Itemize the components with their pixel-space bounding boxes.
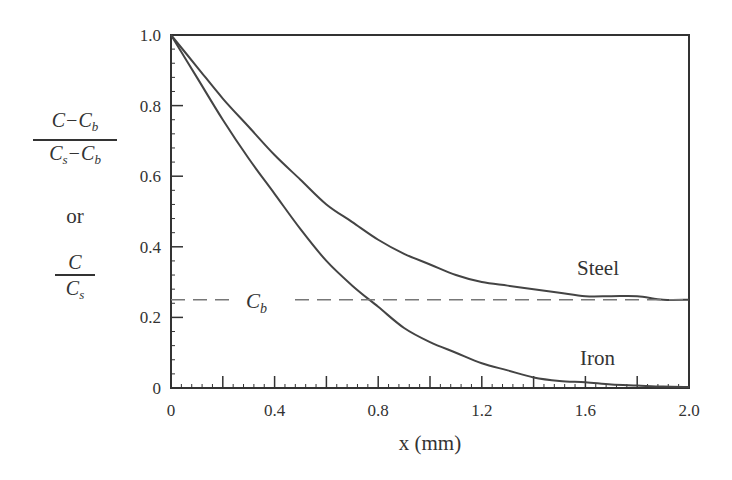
iron-curve	[171, 35, 689, 387]
x-axis-title: x (mm)	[399, 431, 461, 455]
x-tick-label: 0	[167, 401, 176, 420]
x-tick-label: 0.8	[368, 401, 389, 420]
x-tick-label: 1.2	[471, 401, 492, 420]
steel-label: Steel	[577, 256, 619, 280]
y-tick-label: 0.6	[140, 167, 161, 186]
axis-tick-labels: 00.40.81.21.62.000.20.40.60.81.0	[140, 26, 700, 420]
iron-label: Iron	[580, 346, 615, 370]
y-axis-title-fraction-1: C−Cb Cs−Cb	[30, 108, 120, 172]
chart: 00.40.81.21.62.000.20.40.60.81.0 Steel I…	[0, 0, 732, 480]
plot-frame	[171, 35, 689, 388]
y-tick-label: 0.8	[140, 97, 161, 116]
y-axis-title-fraction-2: C Cs	[50, 250, 100, 307]
x-tick-label: 2.0	[678, 401, 699, 420]
y-tick-label: 1.0	[140, 26, 161, 45]
fraction-2-numerator: C	[68, 250, 81, 274]
y-axis-title-or: or	[55, 204, 95, 229]
y-tick-label: 0.2	[140, 308, 161, 327]
y-tick-label: 0.4	[140, 238, 162, 257]
fraction-2-denominator: Cs	[66, 276, 84, 307]
cb-label: Cb	[246, 289, 267, 316]
x-tick-label: 1.6	[575, 401, 596, 420]
x-tick-label: 0.4	[264, 401, 286, 420]
fraction-1-denominator: Cs−Cb	[49, 141, 101, 172]
axis-ticks	[171, 35, 689, 388]
fraction-1-numerator: C−Cb	[52, 108, 99, 139]
y-tick-label: 0	[153, 379, 162, 398]
